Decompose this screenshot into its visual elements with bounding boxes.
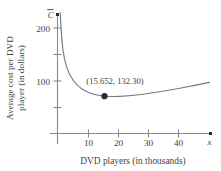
x-tick-label-30: 30 [144, 138, 154, 148]
y-axis-symbol-letter: C [48, 10, 54, 20]
x-axis-title: DVD players (in thousands) [80, 156, 185, 167]
x-tick-label-10: 10 [84, 138, 94, 148]
x-axis-symbol: x [207, 137, 212, 147]
y-tick-label-100: 100 [36, 77, 50, 87]
minimum-point-label: (15.652, 132.30) [86, 76, 143, 86]
y-tick-label-200: 200 [36, 24, 50, 34]
y-axis-cap [56, 13, 59, 16]
x-axis [50, 130, 212, 138]
minimum-point-marker [101, 93, 107, 99]
x-tick-label-20: 20 [114, 138, 124, 148]
y-axis-title-line2: player (in dollars) [16, 45, 26, 111]
y-axis-symbol: C [47, 10, 53, 20]
y-axis-title-line1: Average cost per DVD [5, 36, 15, 120]
y-axis-title: Average cost per DVD player (in dollars) [5, 36, 26, 120]
y-axis [54, 13, 62, 144]
x-tick-label-40: 40 [174, 138, 184, 148]
chart-svg: 200 100 C 10 20 30 40 x (15.652, 132.30) [0, 0, 221, 171]
chart-figure: 200 100 C 10 20 30 40 x (15.652, 132.30) [0, 0, 221, 171]
x-axis-cap [209, 132, 212, 135]
